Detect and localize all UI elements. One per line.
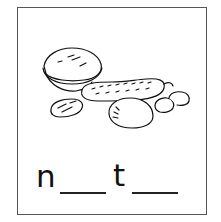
nuts-illustration bbox=[0, 0, 221, 222]
hazelnut-icon bbox=[109, 98, 153, 128]
peanuts-icon bbox=[155, 92, 189, 113]
letter-n: n bbox=[36, 161, 56, 192]
blank-2[interactable] bbox=[132, 192, 178, 194]
letter-t: t bbox=[113, 160, 125, 191]
almond-icon bbox=[51, 99, 83, 117]
blank-1[interactable] bbox=[60, 192, 106, 194]
